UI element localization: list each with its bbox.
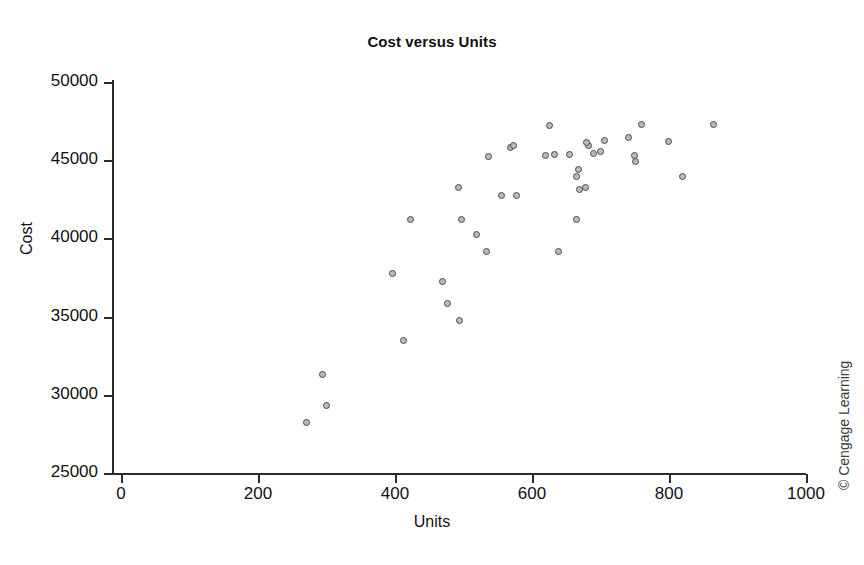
copyright-credit: © Cengage Learning	[836, 361, 852, 490]
y-axis-tick	[104, 395, 113, 397]
data-point	[597, 148, 604, 155]
data-point	[582, 184, 589, 191]
data-point	[455, 184, 462, 191]
x-axis-tick-label: 400	[350, 484, 440, 504]
data-point	[631, 152, 638, 159]
data-point	[458, 216, 465, 223]
y-axis-tick-label: 25000	[0, 462, 98, 482]
x-axis-tick-label: 0	[76, 484, 166, 504]
data-point	[439, 278, 446, 285]
x-axis-tick-label: 800	[624, 484, 714, 504]
x-axis-tick	[121, 474, 123, 483]
x-axis-title: Units	[0, 513, 864, 531]
data-point	[625, 134, 632, 141]
data-point	[573, 173, 580, 180]
x-axis-line	[112, 473, 806, 475]
x-axis-tick	[395, 474, 397, 483]
data-point	[555, 248, 562, 255]
data-point	[665, 138, 672, 145]
data-point	[575, 166, 582, 173]
data-point	[590, 150, 597, 157]
data-point	[710, 121, 717, 128]
data-point	[551, 151, 558, 158]
y-axis-tick	[104, 473, 113, 475]
y-axis-tick-label: 30000	[0, 384, 98, 404]
data-point	[303, 419, 310, 426]
data-point	[566, 151, 573, 158]
data-point	[400, 337, 407, 344]
data-point	[510, 142, 517, 149]
data-point	[456, 317, 463, 324]
data-point	[483, 248, 490, 255]
data-point	[601, 137, 608, 144]
y-axis-tick	[104, 160, 113, 162]
data-point	[513, 192, 520, 199]
x-axis-tick-label: 200	[213, 484, 303, 504]
scatter-chart-figure: Cost versus Units 2500030000350004000045…	[0, 0, 864, 565]
y-axis-tick	[104, 238, 113, 240]
x-axis-tick	[532, 474, 534, 483]
y-axis-tick-label: 45000	[0, 149, 98, 169]
data-point	[485, 153, 492, 160]
data-point	[389, 270, 396, 277]
data-point	[498, 192, 505, 199]
y-axis-tick-label: 40000	[0, 227, 98, 247]
data-point	[583, 139, 590, 146]
x-axis-tick	[806, 474, 808, 483]
y-axis-tick-label: 35000	[0, 306, 98, 326]
chart-title: Cost versus Units	[0, 33, 864, 50]
data-point	[444, 300, 451, 307]
x-axis-tick	[258, 474, 260, 483]
data-point	[323, 402, 330, 409]
data-point	[319, 371, 326, 378]
data-point	[679, 173, 686, 180]
data-point	[573, 216, 580, 223]
data-point	[546, 122, 553, 129]
y-axis-tick	[104, 82, 113, 84]
y-axis-title: Cost	[18, 222, 36, 255]
y-axis-tick	[104, 317, 113, 319]
data-point	[638, 121, 645, 128]
y-axis-tick-label: 50000	[0, 71, 98, 91]
data-point	[473, 231, 480, 238]
x-axis-tick-label: 600	[487, 484, 577, 504]
data-point	[542, 152, 549, 159]
x-axis-tick	[669, 474, 671, 483]
data-point	[407, 216, 414, 223]
plot-area	[121, 82, 806, 473]
y-axis-line	[112, 80, 114, 475]
